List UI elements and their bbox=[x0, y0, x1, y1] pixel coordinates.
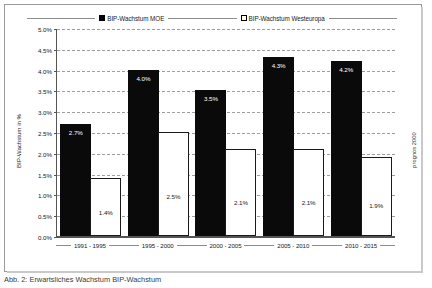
x-label-rule bbox=[177, 245, 192, 246]
y-axis-tick-label: 2.0% bbox=[38, 150, 52, 157]
y-axis-tick-mark bbox=[54, 154, 57, 155]
y-axis-tick-mark bbox=[54, 91, 57, 92]
x-axis-tick-label: 1995 - 2000 bbox=[139, 242, 177, 249]
bar-group: 4.2%1.9% bbox=[327, 29, 395, 236]
x-label-rule bbox=[312, 245, 327, 246]
bar-group: 4.0%2.5% bbox=[125, 29, 193, 236]
bar-group: 4.3%2.1% bbox=[260, 29, 328, 236]
chart-axes: 2.7%1.4%4.0%2.5%3.5%2.1%4.3%2.1%4.2%1.9% bbox=[56, 29, 395, 237]
legend-label-moe: BIP-Wachstum MOE bbox=[107, 15, 164, 22]
bar-groups: 2.7%1.4%4.0%2.5%3.5%2.1%4.3%2.1%4.2%1.9% bbox=[57, 29, 395, 236]
y-axis-tick-mark bbox=[54, 195, 57, 196]
bar-moe[interactable]: 4.0% bbox=[128, 70, 159, 236]
bar-moe[interactable]: 4.3% bbox=[263, 57, 294, 236]
filled-square-icon bbox=[99, 15, 105, 21]
legend-label-westeuropa: BIP-Wachstum Westeuropa bbox=[249, 15, 325, 22]
open-square-icon bbox=[241, 15, 247, 21]
bar-westeuropa[interactable]: 2.1% bbox=[225, 149, 256, 236]
x-axis-tick-label: 2005 - 2010 bbox=[274, 242, 312, 249]
bar-moe[interactable]: 3.5% bbox=[195, 90, 226, 236]
bar-value-label: 4.0% bbox=[129, 75, 158, 82]
bar-group: 2.7%1.4% bbox=[57, 29, 125, 236]
legend-item-westeuropa: BIP-Wachstum Westeuropa bbox=[237, 15, 329, 22]
y-axis-tick-mark bbox=[54, 71, 57, 72]
bar-value-label: 2.1% bbox=[226, 199, 255, 206]
x-label-rule bbox=[109, 245, 124, 246]
x-axis-category: 1995 - 2000 bbox=[124, 242, 192, 249]
y-axis-tick-label: 4.5% bbox=[38, 46, 52, 53]
bar-value-label: 1.9% bbox=[362, 202, 391, 209]
x-axis-tick-label: 2010 - 2015 bbox=[342, 242, 380, 249]
bar-value-label: 2.5% bbox=[159, 193, 188, 200]
bar-value-label: 1.4% bbox=[91, 209, 120, 216]
legend-rule-left bbox=[27, 18, 95, 19]
y-axis-tick-mark bbox=[54, 50, 57, 51]
y-axis-tick-label: 2.5% bbox=[38, 130, 52, 137]
y-axis-title-text: BIP-Wachstum in % bbox=[15, 91, 22, 191]
bar-westeuropa[interactable]: 2.5% bbox=[158, 132, 189, 236]
y-axis-tick-label: 1.5% bbox=[38, 171, 52, 178]
y-axis-tick-label: 3.0% bbox=[38, 109, 52, 116]
figure-caption: Abb. 2: Erwartsliches Wachstum BIP-Wachs… bbox=[4, 275, 161, 284]
y-axis-tick-label: 3.5% bbox=[38, 88, 52, 95]
x-label-rule bbox=[244, 245, 259, 246]
x-label-rule bbox=[192, 245, 207, 246]
chart-legend: BIP-Wachstum MOE BIP-Wachstum Westeuropa bbox=[27, 11, 397, 25]
x-label-rule bbox=[259, 245, 274, 246]
source-note: prognos 2000 bbox=[411, 115, 417, 185]
plot-area: BIP-Wachstum in % prognos 2000 0.0%0.5%1… bbox=[17, 29, 413, 265]
y-axis-tick-label: 0.5% bbox=[38, 213, 52, 220]
bar-westeuropa[interactable]: 2.1% bbox=[293, 149, 324, 236]
x-axis-tick-labels: 1991 - 19951995 - 20002000 - 20052005 - … bbox=[56, 238, 395, 252]
legend-item-moe: BIP-Wachstum MOE bbox=[95, 15, 168, 22]
y-axis-tick-label: 4.0% bbox=[38, 67, 52, 74]
bar-value-label: 2.7% bbox=[61, 129, 90, 136]
y-axis-tick-mark bbox=[54, 133, 57, 134]
bar-group: 3.5%2.1% bbox=[192, 29, 260, 236]
y-axis-tick-labels: 0.0%0.5%1.0%1.5%2.0%2.5%3.0%3.5%4.0%4.5%… bbox=[27, 29, 54, 237]
bar-value-label: 4.2% bbox=[332, 66, 361, 73]
y-axis-tick-label: 1.0% bbox=[38, 192, 52, 199]
chart-figure: BIP-Wachstum MOE BIP-Wachstum Westeuropa… bbox=[4, 4, 422, 272]
y-axis-tick-mark bbox=[54, 216, 57, 217]
y-axis-tick-label: 5.0% bbox=[38, 26, 52, 33]
bar-value-label: 4.3% bbox=[264, 62, 293, 69]
x-axis-category: 2005 - 2010 bbox=[259, 242, 327, 249]
bar-westeuropa[interactable]: 1.4% bbox=[90, 178, 121, 236]
x-axis-category: 1991 - 1995 bbox=[56, 242, 124, 249]
x-axis-tick-label: 1991 - 1995 bbox=[71, 242, 109, 249]
y-axis-tick-mark bbox=[54, 29, 57, 30]
y-axis-tick-mark bbox=[54, 112, 57, 113]
bar-moe[interactable]: 2.7% bbox=[60, 124, 91, 236]
x-axis-category: 2010 - 2015 bbox=[327, 242, 395, 249]
x-label-rule bbox=[327, 245, 342, 246]
legend-rule-middle bbox=[168, 18, 236, 19]
bar-value-label: 2.1% bbox=[294, 199, 323, 206]
x-label-rule bbox=[124, 245, 139, 246]
bar-value-label: 3.5% bbox=[196, 95, 225, 102]
bar-moe[interactable]: 4.2% bbox=[331, 61, 362, 236]
x-axis-category: 2000 - 2005 bbox=[192, 242, 260, 249]
bar-westeuropa[interactable]: 1.9% bbox=[361, 157, 392, 236]
x-label-rule bbox=[56, 245, 71, 246]
y-axis-tick-mark bbox=[54, 175, 57, 176]
x-axis-tick-label: 2000 - 2005 bbox=[207, 242, 245, 249]
legend-rule-right bbox=[329, 18, 397, 19]
x-label-rule bbox=[380, 245, 395, 246]
y-axis-tick-label: 0.0% bbox=[38, 234, 52, 241]
